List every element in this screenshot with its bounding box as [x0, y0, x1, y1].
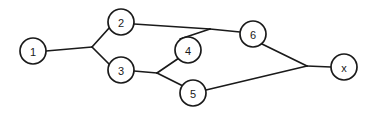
- edge-rightfork-to-x: [307, 66, 331, 67]
- edge-3-to-midfork: [134, 71, 157, 73]
- node-2[interactable]: 2: [108, 9, 134, 35]
- edge-fork-to-2: [92, 27, 110, 47]
- node-6[interactable]: 6: [240, 21, 266, 47]
- node-2-label: 2: [118, 17, 124, 29]
- edge-5-to-rightfork: [206, 66, 307, 90]
- graph-diagram: 1 2 3 4 5 6: [0, 0, 371, 116]
- edge-fork-to-3: [92, 47, 110, 65]
- node-x-label: x: [341, 62, 347, 74]
- node-4[interactable]: 4: [175, 37, 201, 63]
- node-x[interactable]: x: [331, 54, 357, 80]
- edge-midfork-to-4: [157, 58, 179, 73]
- node-5-label: 5: [190, 88, 196, 100]
- node-4-label: 4: [185, 45, 191, 57]
- node-3-label: 3: [118, 65, 124, 77]
- edge-topfork-to-6: [210, 29, 240, 32]
- node-5[interactable]: 5: [180, 80, 206, 106]
- edge-1-to-fork: [46, 47, 92, 51]
- node-6-label: 6: [250, 29, 256, 41]
- node-3[interactable]: 3: [108, 57, 134, 83]
- graph-canvas: 1 2 3 4 5 6: [0, 0, 371, 116]
- edge-midfork-to-5: [157, 73, 183, 86]
- node-1-label: 1: [30, 46, 36, 58]
- node-group: 1 2 3 4 5 6: [20, 9, 357, 106]
- node-1[interactable]: 1: [20, 38, 46, 64]
- edge-6-to-rightfork: [262, 44, 307, 66]
- edge-2-to-topfork: [134, 24, 210, 29]
